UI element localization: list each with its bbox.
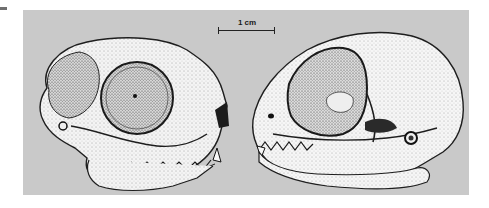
figure-panel: 1 cm xyxy=(23,10,469,195)
skull-drawing-right xyxy=(247,24,467,194)
corner-mark xyxy=(0,7,7,10)
skull-drawing-left xyxy=(27,30,247,195)
